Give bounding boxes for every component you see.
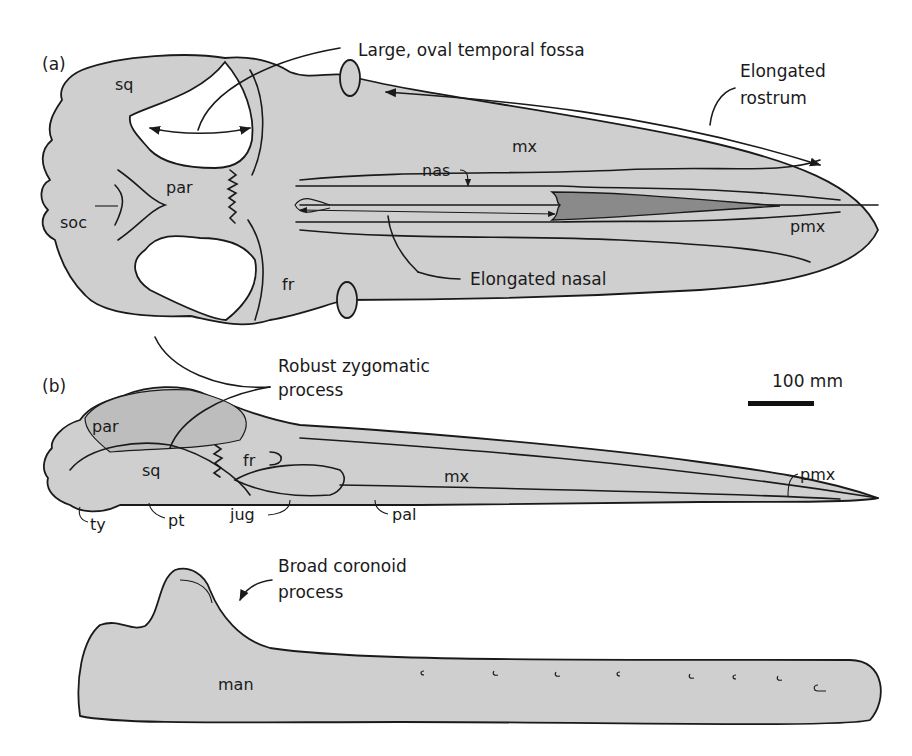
panel-a-dorsal-view: (a) sq par soc — [41, 40, 878, 324]
label-b-jug: jug — [229, 505, 255, 524]
label-man: man — [218, 675, 254, 694]
label-b-fr: fr — [243, 451, 256, 470]
label-b-mx: mx — [444, 467, 469, 486]
label-soc: soc — [60, 213, 87, 232]
callout-zygomatic-line1: Robust zygomatic — [278, 356, 430, 376]
skull-figure: (a) sq par soc — [0, 0, 912, 756]
scale-bar — [748, 401, 814, 406]
label-b-pmx: pmx — [800, 465, 835, 484]
callout-rostrum-line2: rostrum — [740, 88, 807, 108]
panel-a-label: (a) — [42, 54, 66, 74]
coronoid-leader — [240, 580, 272, 600]
mandible-outline — [78, 569, 880, 724]
scale-bar-label: 100 mm — [772, 371, 843, 391]
preorbital-bump-lower — [337, 282, 357, 318]
callout-coronoid-line1: Broad coronoid — [278, 556, 407, 576]
label-nas: nas — [422, 161, 450, 180]
label-b-sq: sq — [142, 461, 161, 480]
label-b-par: par — [92, 417, 119, 436]
panel-b-lateral-view: (b) par sq fr mx pmx ty pt jug pal Robus… — [42, 337, 878, 534]
label-pmx: pmx — [790, 217, 825, 236]
callout-temporal-fossa: Large, oval temporal fossa — [358, 40, 585, 60]
preorbital-bump-upper — [340, 60, 360, 96]
label-sq: sq — [115, 75, 134, 94]
callout-nasal: Elongated nasal — [470, 269, 606, 289]
rostrum-leader — [710, 88, 735, 125]
callout-coronoid-line2: process — [278, 582, 343, 602]
panel-mandible: man Broad coronoid process — [78, 556, 880, 724]
label-fr: fr — [282, 275, 295, 294]
callout-rostrum-line1: Elongated — [740, 61, 826, 81]
label-b-pal: pal — [392, 505, 416, 524]
zygomatic-leader-a — [155, 337, 270, 387]
panel-b-label: (b) — [42, 376, 66, 396]
label-b-pt: pt — [168, 511, 184, 530]
label-b-ty: ty — [90, 515, 106, 534]
callout-zygomatic-line2: process — [278, 380, 343, 400]
label-par: par — [166, 178, 193, 197]
label-mx: mx — [512, 137, 537, 156]
